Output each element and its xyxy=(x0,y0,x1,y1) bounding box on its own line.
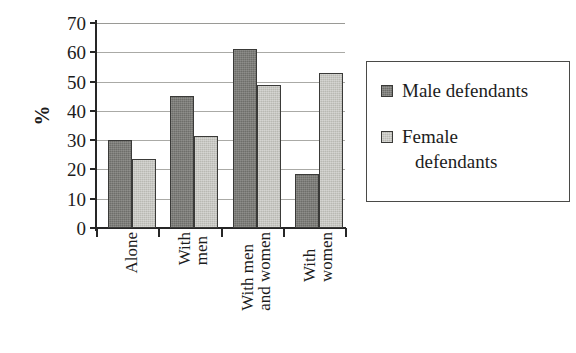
legend-entry-female: Female defendants xyxy=(381,125,569,174)
y-tick-label: 40 xyxy=(67,101,86,120)
bars-layer xyxy=(96,23,345,228)
x-axis-label-0: Alone xyxy=(123,232,140,274)
y-tick-label: 50 xyxy=(67,72,86,91)
x-axis-label-1: Withmen xyxy=(176,232,211,265)
bar-female-1 xyxy=(194,136,218,228)
bar-male-3 xyxy=(295,174,319,228)
bar-female-0 xyxy=(132,159,156,228)
chart-legend: Male defendants Female defendants xyxy=(366,61,570,202)
x-axis-category-labels: AloneWithmenWith menand womenWithwomen xyxy=(96,232,345,353)
bar-female-2 xyxy=(257,85,281,229)
legend-label-male: Male defendants xyxy=(402,79,528,103)
x-label-line: women xyxy=(318,232,335,282)
legend-label-female: Female defendants xyxy=(402,125,497,174)
x-label-line: Alone xyxy=(123,232,140,274)
legend-swatch-female-icon xyxy=(381,131,393,143)
plot-area: 010203040506070 xyxy=(96,23,345,228)
y-tick-label: 60 xyxy=(67,43,86,62)
bar-male-1 xyxy=(170,96,194,228)
y-tick-label: 30 xyxy=(67,131,86,150)
bar-male-2 xyxy=(233,49,257,228)
bar-male-0 xyxy=(108,140,132,228)
x-label-line: With men xyxy=(239,232,256,311)
legend-entry-male: Male defendants xyxy=(381,79,569,103)
y-axis-title: % xyxy=(31,96,54,136)
x-label-line: men xyxy=(194,232,211,265)
y-tick-label: 10 xyxy=(67,189,86,208)
legend-label-female-line2: defendants xyxy=(402,150,497,174)
y-tick-label: 20 xyxy=(67,160,86,179)
bar-female-3 xyxy=(319,73,343,228)
x-label-line: and women xyxy=(256,232,273,311)
x-axis-label-2: With menand women xyxy=(239,232,274,311)
x-axis-label-3: Withwomen xyxy=(301,232,336,282)
x-label-line: With xyxy=(176,232,193,265)
x-label-line: With xyxy=(301,232,318,282)
legend-swatch-male-icon xyxy=(381,85,393,97)
bar-chart-figure: % 010203040506070 AloneWithmenWith menan… xyxy=(0,0,576,353)
y-tick-label: 0 xyxy=(77,219,87,238)
x-tick-mark xyxy=(345,228,347,237)
legend-label-female-line1: Female xyxy=(402,126,458,147)
y-tick-label: 70 xyxy=(67,14,86,33)
